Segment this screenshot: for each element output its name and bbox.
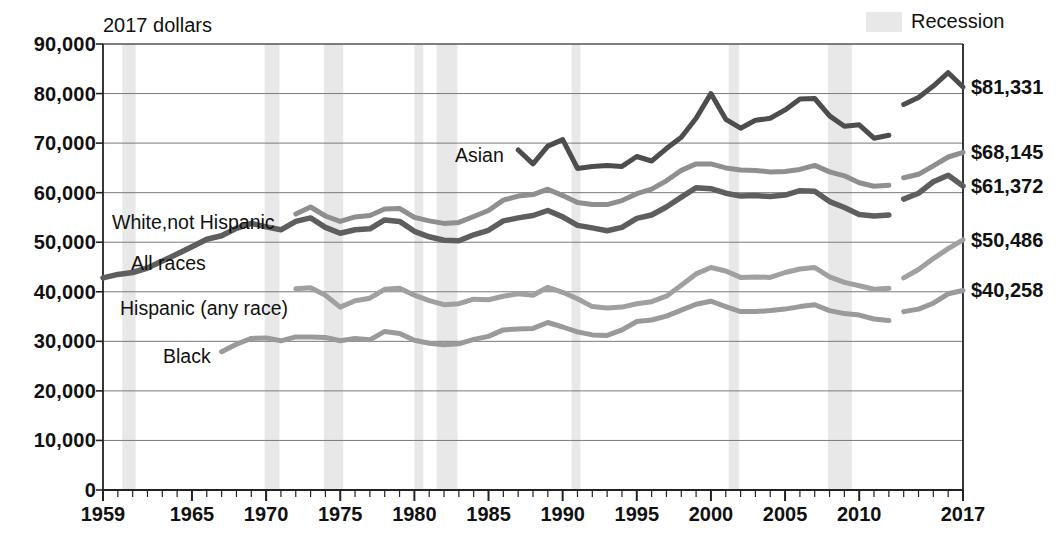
all-races-end-label: $61,372 bbox=[971, 174, 1043, 197]
hispanic-end-label: $50,486 bbox=[971, 228, 1043, 251]
asian-end-label: $81,331 bbox=[971, 75, 1043, 98]
chart-page: 2017 dollars Recession 90,00080,00070,00… bbox=[0, 0, 1063, 559]
hispanic-series-label: Hispanic (any race) bbox=[120, 297, 288, 320]
asian-series-label: Asian bbox=[455, 144, 504, 167]
white-end-label: $68,145 bbox=[971, 141, 1043, 164]
black-end-label: $40,258 bbox=[971, 279, 1043, 302]
white-series-label: White,not Hispanic bbox=[112, 211, 275, 234]
all-races-series-label: All races bbox=[131, 252, 206, 275]
black-series-label: Black bbox=[163, 345, 211, 368]
chart-annotations: AsianWhite,not HispanicAll racesHispanic… bbox=[0, 0, 1063, 559]
